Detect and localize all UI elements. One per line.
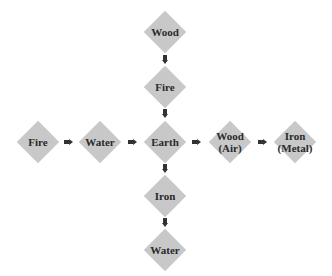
- node-fire-left: Fire: [16, 120, 60, 164]
- node-label: Iron: [155, 190, 176, 202]
- arrow-right-icon: [128, 139, 138, 145]
- node-label: Fire: [155, 81, 174, 93]
- node-label: Water: [85, 136, 114, 148]
- node-earth-center: Earth: [143, 120, 187, 164]
- arrow-down-icon: [162, 218, 168, 228]
- node-water-bottom: Water: [143, 228, 187, 272]
- node-fire-top: Fire: [143, 65, 187, 109]
- node-iron-metal: Iron (Metal): [273, 120, 317, 164]
- node-label-line1: Iron: [285, 130, 306, 142]
- node-iron-bottom: Iron: [143, 174, 187, 218]
- arrow-down-icon: [162, 109, 168, 119]
- node-label-line1: Wood: [216, 130, 244, 142]
- node-label: Wood: [151, 26, 179, 38]
- node-label: Earth: [151, 136, 179, 148]
- node-wood-air: Wood (Air): [208, 120, 252, 164]
- arrow-down-icon: [162, 164, 168, 174]
- node-wood-top: Wood: [143, 10, 187, 54]
- node-water-left: Water: [78, 120, 122, 164]
- node-label-line2: (Metal): [278, 142, 313, 154]
- node-label-line2: (Air): [218, 142, 241, 154]
- node-label: Water: [150, 244, 179, 256]
- node-label: Fire: [28, 136, 47, 148]
- arrow-down-icon: [162, 55, 168, 65]
